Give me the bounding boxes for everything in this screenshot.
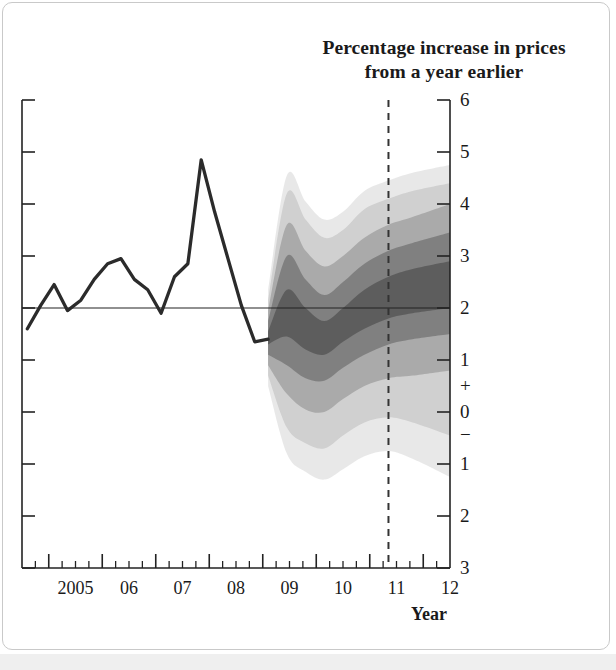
x-tick-label: 09: [260, 579, 320, 597]
y-tick-label: 5: [460, 142, 470, 161]
fan-probability-bands: [268, 165, 450, 480]
x-tick-label: 12: [420, 579, 480, 597]
y-tick-label: 1: [460, 350, 470, 369]
actual-inflation-line: [27, 160, 268, 342]
history-line-path: [27, 160, 268, 342]
chart-page: Percentage increase in prices from a yea…: [0, 0, 616, 670]
y-tick-label: 2: [460, 298, 470, 317]
y-tick-label: 4: [460, 194, 470, 213]
fan-chart: 6543210123+− 200506070809101112: [0, 0, 616, 670]
fan-chart-svg: [0, 0, 616, 670]
y-axis-sign-plus: +: [460, 376, 471, 395]
x-tick-label: 10: [313, 579, 373, 597]
x-tick-label: 06: [99, 579, 159, 597]
y-tick-label: 0: [460, 402, 470, 421]
y-axis-sign-minus: −: [460, 425, 471, 444]
x-tick-label: 11: [367, 579, 427, 597]
x-tick-label: 07: [153, 579, 213, 597]
y-tick-label: 3: [460, 558, 470, 577]
y-tick-label: 1: [460, 454, 470, 473]
x-tick-label: 08: [206, 579, 266, 597]
y-tick-label: 2: [460, 506, 470, 525]
x-axis-title: Year: [384, 604, 474, 625]
x-tick-label: 2005: [46, 579, 106, 597]
y-tick-label: 6: [460, 90, 470, 109]
y-tick-label: 3: [460, 246, 470, 265]
